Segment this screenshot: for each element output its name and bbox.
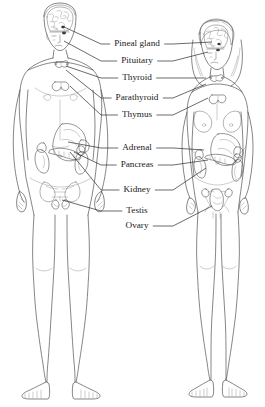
diagram-canvas: Pineal glandPituitaryThyroidParathyroidT…	[0, 0, 265, 407]
female-pineal-gland-marker	[217, 43, 220, 45]
male-parathyroid-marker	[55, 63, 57, 65]
label-text-pituitary: Pituitary	[121, 55, 153, 65]
label-text-adrenal: Adrenal	[122, 142, 152, 152]
label-text-thymus: Thymus	[122, 109, 153, 119]
label-text-pancreas: Pancreas	[121, 159, 154, 169]
label-text-thyroid: Thyroid	[122, 72, 152, 82]
label-text-parathyroid: Parathyroid	[116, 92, 159, 102]
label-text-pineal-gland: Pineal gland	[114, 38, 160, 48]
endocrine-diagram: Pineal glandPituitaryThyroidParathyroidT…	[0, 0, 265, 407]
label-text-kidney: Kidney	[123, 184, 150, 194]
label-text-ovary: Ovary	[126, 220, 149, 230]
female-parathyroid-marker	[210, 77, 212, 79]
label-text-testis: Testis	[126, 205, 148, 215]
